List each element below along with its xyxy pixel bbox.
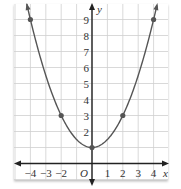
x-tick-label: 4 — [151, 167, 157, 179]
data-point — [59, 113, 64, 118]
x-tick-label: −2 — [55, 167, 67, 179]
x-axis-label: x — [162, 167, 168, 179]
y-tick-label: 3 — [84, 110, 90, 122]
parabola-graph: −4−3−21234 23456789 x y O — [0, 0, 181, 189]
x-tick-label: 2 — [120, 167, 126, 179]
y-tick-label: 7 — [84, 46, 90, 58]
data-point — [151, 17, 156, 22]
x-tick-label: 1 — [105, 167, 111, 179]
data-point — [120, 113, 125, 118]
data-point — [28, 17, 33, 22]
grid-background — [14, 4, 168, 180]
y-tick-label: 8 — [84, 30, 90, 42]
x-tick-label: 3 — [135, 167, 141, 179]
y-tick-label: 5 — [84, 78, 90, 90]
x-tick-label: −3 — [40, 167, 52, 179]
y-axis-label: y — [96, 3, 102, 15]
origin-label: O — [80, 167, 88, 179]
x-tick-label: −4 — [25, 167, 37, 179]
y-tick-label: 9 — [84, 14, 90, 26]
y-tick-label: 2 — [84, 126, 90, 138]
y-tick-label: 6 — [84, 62, 90, 74]
y-tick-label: 4 — [84, 94, 90, 106]
y-axis-down-arrow-icon — [89, 179, 95, 186]
data-point — [89, 145, 94, 150]
